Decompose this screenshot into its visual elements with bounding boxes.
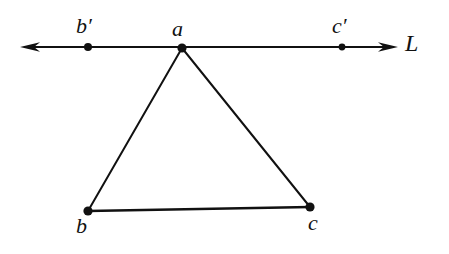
label-c-prime: c′ [332, 15, 347, 37]
point-c-prime [339, 44, 346, 51]
label-line-L: L [405, 31, 418, 55]
label-a: a [172, 18, 183, 40]
geometry-figure [0, 0, 449, 254]
label-c: c [308, 212, 318, 234]
side-ab [88, 48, 182, 211]
point-markers [83, 43, 345, 216]
side-ac [182, 48, 310, 207]
label-b-prime: b′ [76, 15, 92, 37]
triangle-abc [88, 48, 310, 211]
point-a [177, 43, 186, 52]
label-b: b [76, 215, 87, 237]
diagram-canvas: b′ a c′ L b c [0, 0, 449, 254]
side-bc [88, 207, 310, 211]
point-b-prime [84, 43, 92, 51]
